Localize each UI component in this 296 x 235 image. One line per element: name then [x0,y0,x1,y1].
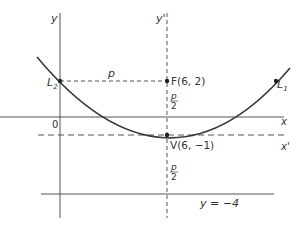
point-vertex [165,133,169,137]
x-prime-axis-label: x' [280,141,290,152]
p-half-top-numerator: p [170,91,177,101]
focus-label: F(6, 2) [171,75,205,87]
L1-label: L1 [277,78,288,93]
x-axis-label: x [280,116,287,127]
parabola-curve [37,57,290,138]
vertex-label: V(6, −1) [170,139,214,151]
p-half-bottom-denominator: 2 [171,172,177,182]
point-focus [165,79,169,83]
p-half-bottom-numerator: p [170,162,177,172]
y-prime-axis-label: y' [155,12,166,25]
p-half-top-denominator: 2 [171,101,177,111]
directrix-label: y = −4 [199,197,239,210]
origin-label: 0 [52,119,58,130]
point-L2 [58,79,62,83]
p-label: p [107,67,115,80]
parabola-diagram: y y' x x' 0 L2 F(6, 2) L1 V(6, −1) p p 2… [0,0,296,235]
y-axis-label: y [50,12,58,25]
